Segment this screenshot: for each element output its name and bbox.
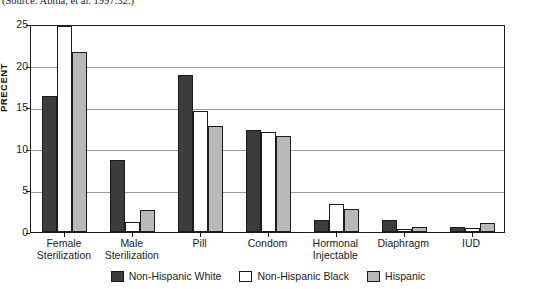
legend-swatch: [111, 271, 124, 282]
y-tick-label: 20: [8, 60, 28, 72]
x-axis-label: MaleSterilization: [98, 238, 166, 261]
bar-group: [302, 24, 370, 232]
bar: [329, 204, 344, 232]
legend-label: Hispanic: [385, 270, 425, 282]
bar-group: [99, 24, 167, 232]
bar: [450, 227, 465, 232]
bar: [178, 75, 193, 232]
legend-item[interactable]: Non-Hispanic Black: [239, 270, 349, 282]
x-axis-label: Condom: [234, 238, 302, 250]
bar-group: [235, 24, 303, 232]
bar-group: [167, 24, 235, 232]
legend-item[interactable]: Non-Hispanic White: [111, 270, 222, 282]
x-axis-label-line: Sterilization: [98, 250, 166, 262]
y-tick-mark: [26, 25, 30, 26]
chart-legend: Non-Hispanic WhiteNon-Hispanic BlackHisp…: [0, 270, 536, 282]
x-axis-label-line: Female: [30, 238, 98, 250]
bar: [110, 160, 125, 232]
y-tick-mark: [26, 233, 30, 234]
x-axis-label: Diaphragm: [369, 238, 437, 250]
x-axis-label-line: Diaphragm: [369, 238, 437, 250]
x-axis-label-line: Pill: [166, 238, 234, 250]
x-axis-label: Pill: [166, 238, 234, 250]
legend-label: Non-Hispanic Black: [257, 270, 349, 282]
y-tick-label: 5: [8, 184, 28, 196]
legend-item[interactable]: Hispanic: [367, 270, 425, 282]
bar: [140, 210, 155, 232]
y-tick-label: 15: [8, 101, 28, 113]
bar: [480, 223, 495, 232]
bar: [276, 136, 291, 232]
y-tick-label: 0: [8, 226, 28, 238]
bar: [193, 111, 208, 232]
y-tick-label: 25: [8, 18, 28, 30]
bar: [246, 130, 261, 232]
bar-group: [370, 24, 438, 232]
bar: [208, 126, 223, 232]
legend-label: Non-Hispanic White: [129, 270, 222, 282]
plot-area: [30, 25, 505, 233]
y-tick-mark: [26, 67, 30, 68]
y-tick-label: 10: [8, 143, 28, 155]
grouped-bar-chart: PRECENT 0510152025FemaleSterilizationMal…: [0, 0, 536, 289]
bar: [125, 222, 140, 232]
legend-swatch: [367, 271, 380, 282]
x-axis-label: IUD: [437, 238, 505, 250]
y-tick-mark: [26, 150, 30, 151]
bar: [314, 220, 329, 232]
y-tick-mark: [26, 191, 30, 192]
x-axis-label-line: Injectable: [301, 250, 369, 262]
bar: [57, 26, 72, 232]
x-axis-label: FemaleSterilization: [30, 238, 98, 261]
bar-group: [438, 24, 506, 232]
x-axis-label: HormonalInjectable: [301, 238, 369, 261]
legend-swatch: [239, 271, 252, 282]
bar: [42, 96, 57, 232]
y-tick-mark: [26, 108, 30, 109]
bar: [382, 220, 397, 232]
x-axis-label-line: Male: [98, 238, 166, 250]
bar: [72, 52, 87, 232]
x-axis-label-line: Sterilization: [30, 250, 98, 262]
x-axis-label-line: Condom: [234, 238, 302, 250]
x-axis-label-line: Hormonal: [301, 238, 369, 250]
bar: [261, 132, 276, 232]
bar: [344, 209, 359, 232]
x-axis-label-line: IUD: [437, 238, 505, 250]
bar-group: [31, 24, 99, 232]
bar: [412, 227, 427, 232]
